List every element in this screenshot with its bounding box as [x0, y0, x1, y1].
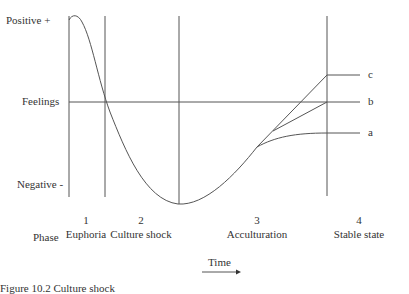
outcome-label-b: b — [368, 95, 374, 107]
figure-caption: Figure 10.2 Culture shock — [0, 282, 115, 294]
phase-4-name: Stable state — [334, 228, 384, 240]
negative-label: Negative - — [17, 178, 63, 190]
time-axis-label: Time — [208, 256, 231, 268]
phase-2-name: Culture shock — [110, 228, 171, 240]
outcome-label-a: a — [368, 126, 373, 138]
main-feelings-curve — [69, 16, 257, 204]
phase-3-number: 3 — [254, 214, 260, 226]
outcome-curve-c — [257, 75, 360, 147]
phase-2-number: 2 — [138, 214, 144, 226]
phase-1-name: Euphoria — [66, 228, 106, 240]
feelings-label: Feelings — [22, 95, 59, 107]
phase-3-name: Acculturation — [227, 228, 287, 240]
phase-1-number: 1 — [83, 214, 89, 226]
outcome-label-c: c — [368, 68, 373, 80]
phase-4-number: 4 — [356, 214, 362, 226]
phase-label: Phase — [33, 231, 59, 243]
outcome-curve-a — [257, 133, 360, 147]
positive-label: Positive + — [6, 14, 50, 26]
time-arrow-head — [236, 270, 241, 275]
outcome-curve-b — [273, 102, 327, 131]
